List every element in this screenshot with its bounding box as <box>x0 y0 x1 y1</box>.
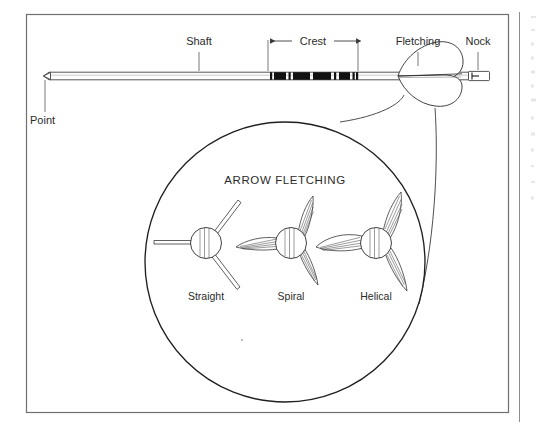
crest-bands <box>270 72 358 80</box>
gutter-text-fragments <box>531 17 536 198</box>
arrow-illustration <box>44 42 490 107</box>
inset-speck <box>241 339 243 341</box>
fletching-vane-lower <box>398 75 462 106</box>
label-spiral: Spiral <box>278 290 305 302</box>
label-helical: Helical <box>360 290 392 302</box>
label-point-group: Point <box>30 80 55 126</box>
helical-shaft-section <box>361 228 392 259</box>
label-point: Point <box>30 114 55 126</box>
inset-title: ARROW FLETCHING <box>224 174 345 186</box>
label-shaft-group: Shaft <box>186 35 212 71</box>
arrow-nock <box>469 71 490 80</box>
label-fletching: Fletching <box>396 35 441 47</box>
arrow-anatomy-figure: Point Shaft Crest Fletching Nock <box>0 0 539 434</box>
label-shaft: Shaft <box>186 35 212 47</box>
inset-circle <box>145 122 425 402</box>
figure-page: Point Shaft Crest Fletching Nock <box>0 0 539 434</box>
label-straight: Straight <box>188 290 224 302</box>
label-crest-group: Crest <box>268 35 358 71</box>
label-nock: Nock <box>465 35 491 47</box>
fletching-vane <box>398 42 463 79</box>
callout-line-upper <box>340 95 404 122</box>
fletching-inset: ARROW FLETCHING Straight <box>145 122 425 402</box>
spiral-shaft-section <box>276 228 307 259</box>
label-crest: Crest <box>300 35 326 47</box>
label-nock-group: Nock <box>465 35 491 70</box>
straight-shaft-section <box>191 228 222 259</box>
